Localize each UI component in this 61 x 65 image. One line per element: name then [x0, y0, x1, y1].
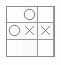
board-cell-r1c2[interactable]: [38, 23, 54, 39]
board-cell-r2c0[interactable]: [7, 40, 23, 56]
board-cell-r2c1[interactable]: [23, 40, 39, 56]
board-cell-r2c2[interactable]: [38, 40, 54, 56]
board-cell-r0c2[interactable]: [38, 7, 54, 23]
board-cell-r0c0[interactable]: [7, 7, 23, 23]
board-cell-r0c1[interactable]: [23, 7, 39, 23]
x-mark-icon: [40, 25, 51, 36]
board-cell-r1c1[interactable]: [23, 23, 39, 39]
board-cell-r1c0[interactable]: [7, 23, 23, 39]
x-mark-icon: [24, 25, 35, 36]
o-mark-icon: [8, 24, 21, 37]
tic-tac-toe-board: [6, 6, 55, 57]
o-mark-icon: [23, 8, 36, 21]
